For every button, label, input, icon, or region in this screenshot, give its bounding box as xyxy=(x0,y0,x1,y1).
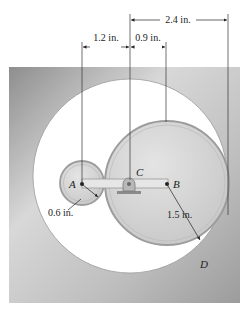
dim-2-4: 2.4 in. xyxy=(165,14,190,25)
label-D: D xyxy=(199,258,208,270)
dim-0-9: 0.9 in. xyxy=(135,32,160,43)
label-B: B xyxy=(173,178,180,190)
pin-B xyxy=(165,182,169,186)
label-C: C xyxy=(136,166,144,178)
label-A: A xyxy=(68,178,76,190)
dim-radius-A: 0.6 in. xyxy=(48,207,73,218)
gear-train-diagram: 2.4 in. 1.2 in. 0.9 in. 0.6 in. 1.5 in. … xyxy=(0,0,247,310)
dim-radius-B: 1.5 in. xyxy=(167,209,192,220)
dim-1-2: 1.2 in. xyxy=(93,32,118,43)
